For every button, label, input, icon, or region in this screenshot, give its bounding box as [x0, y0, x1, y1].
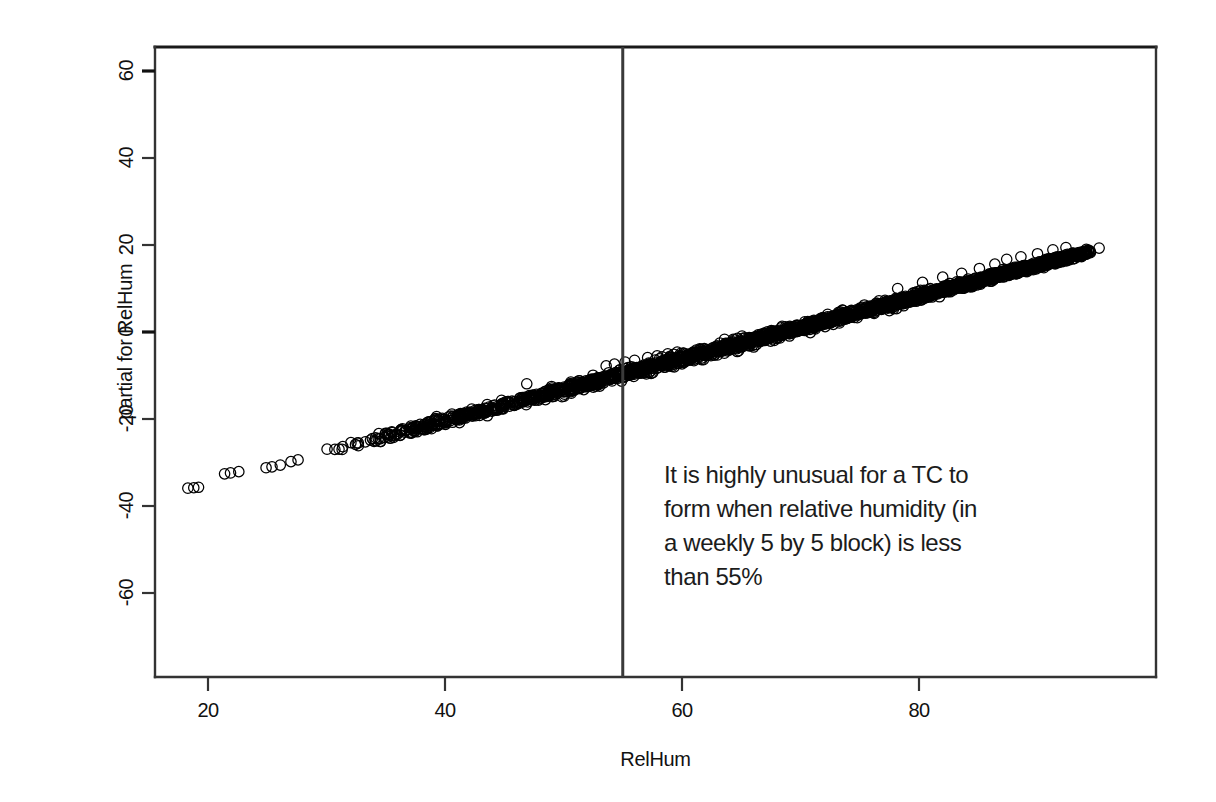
x-tick-label-40: 40 [405, 699, 485, 722]
data-point [293, 455, 303, 465]
x-axis-title: RelHum [155, 748, 1156, 771]
data-point [1001, 254, 1011, 264]
data-point [1094, 243, 1104, 253]
data-point [892, 283, 902, 293]
y-tick-label--60: -60 [115, 562, 138, 624]
chart-annotation-text: It is highly unusual for a TC toform whe… [664, 458, 1034, 594]
scatter-points [183, 242, 1105, 493]
annotation-line-4: than 55% [664, 560, 1034, 594]
y-tick-label--40: -40 [115, 475, 138, 537]
data-point [286, 456, 296, 466]
y-tick-label-60: 60 [115, 40, 138, 102]
annotation-line-2: form when relative humidity (in [664, 492, 1034, 526]
annotation-line-3: a weekly 5 by 5 block) is less [664, 526, 1034, 560]
x-tick-label-80: 80 [879, 699, 959, 722]
data-point [522, 379, 532, 389]
data-point [1016, 252, 1026, 262]
y-tick-label-40: 40 [115, 127, 138, 189]
plot-canvas [0, 0, 1216, 802]
y-axis-title: partial for RelHum [114, 202, 137, 482]
x-tick-label-20: 20 [168, 699, 248, 722]
y-axis-ticks [142, 71, 155, 593]
x-tick-label-60: 60 [642, 699, 722, 722]
annotation-line-1: It is highly unusual for a TC to [664, 458, 1034, 492]
x-axis-ticks [208, 677, 919, 691]
partial-effect-plot-figure: -60-40-200204060 20406080 partial for Re… [0, 0, 1216, 802]
